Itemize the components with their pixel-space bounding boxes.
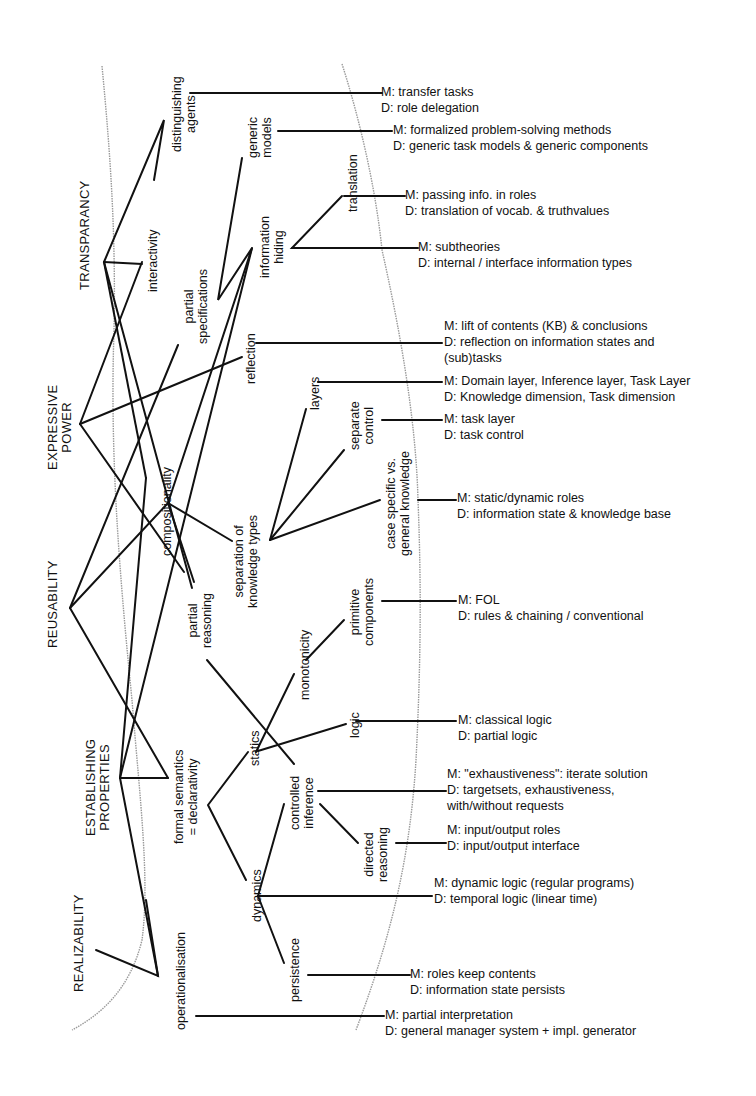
concept-distinguishing-agents: distinguishingagents: [170, 76, 198, 152]
link-controlled-directed: [320, 804, 358, 843]
desc-logic: M: classical logicD: partial logic: [458, 712, 552, 744]
concept-persistence: persistence: [288, 938, 302, 1002]
criterion-realizability: REALIZABILITY: [72, 894, 86, 992]
concept-layers: layers: [308, 377, 322, 410]
concept-controlled-inference: controlledinference: [288, 776, 316, 830]
concept-separate-control: separatecontrol: [348, 401, 376, 450]
concept-operationalisation: operationalisation: [174, 932, 188, 1030]
desc-case-specific: M: static/dynamic rolesD: information st…: [457, 490, 671, 522]
concept-primitive-components: primitivecomponents: [348, 578, 376, 646]
concept-partial-reasoning: partialreasoning: [186, 593, 214, 648]
desc-generic-models: M: formalized problem-solving methodsD: …: [393, 122, 648, 154]
criterion-reusability: REUSABILITY: [46, 560, 60, 648]
concept-formal-semantics: formal semantics= declarativity: [172, 750, 200, 844]
concept-interactivity: interactivity: [146, 229, 160, 292]
concept-dynamics: dynamics: [250, 869, 264, 922]
link-formal-statics-dynamics: [208, 752, 248, 880]
concept-monotonicity: monotonicity: [298, 630, 312, 700]
diagram-lines: [0, 0, 756, 1096]
link-sep-layers: [270, 409, 306, 540]
link-transparancy-a: [104, 262, 146, 478]
desc-primitive-components: M: FOLD: rules & chaining / conventional: [458, 592, 644, 624]
desc-reflection: M: lift of contents (KB) & conclusionsD:…: [444, 318, 655, 366]
concept-separation-of-knowledge-types: separation ofknowledge types: [232, 515, 260, 608]
concept-generic-models: genericmodels: [246, 117, 274, 158]
link-partial-spec-zigzag: [168, 158, 252, 503]
desc-dynamics: M: dynamic logic (regular programs)D: te…: [434, 875, 634, 907]
concept-translation: translation: [346, 154, 360, 212]
concept-case-specific-vs-general: case specific vs.general knowledge: [384, 451, 412, 556]
criterion-transparancy: TRANSPARANCY: [78, 180, 92, 290]
link-transparancy-interactivity: [104, 262, 142, 264]
desc-distinguishing-agents: M: transfer tasksD: role delegation: [381, 84, 479, 116]
link-reusability-compositionality: [70, 503, 168, 608]
desc-controlled-inference: M: "exhaustiveness": iterate solutionD: …: [447, 766, 648, 814]
link-expressive-reflection: [80, 357, 242, 424]
desc-separate-control: M: task layerD: task control: [444, 411, 524, 443]
desc-layers: M: Domain layer, Inference layer, Task L…: [444, 373, 690, 405]
desc-persistence: M: roles keep contentsD: information sta…: [410, 966, 565, 998]
link-realizability-op: [96, 900, 158, 976]
criterion-expressive-power: EXPRESSIVEPOWER: [46, 385, 74, 470]
concept-statics: statics: [248, 731, 262, 766]
criteria-concept-diagram: TRANSPARANCY EXPRESSIVEPOWER REUSABILITY…: [0, 0, 756, 1096]
concept-logic: logic: [348, 712, 362, 738]
desc-translation: M: passing info. in rolesD: translation …: [405, 187, 609, 219]
desc-directed-reasoning: M: input/output rolesD: input/output int…: [447, 822, 580, 854]
link-info-hiding-translation: [292, 196, 378, 248]
concept-partial-specifications: partialspecifications: [182, 269, 210, 344]
desc-operationalisation: M: partial interpretationD: general mana…: [385, 1007, 636, 1039]
criterion-establishing-properties: ESTABLISHINGPROPERTIES: [84, 739, 112, 836]
concept-compositionality: compositionality: [160, 467, 174, 556]
concept-reflection: reflection: [244, 333, 258, 384]
desc-information-hiding: M: subtheoriesD: internal / interface in…: [418, 239, 632, 271]
concept-information-hiding: informationhiding: [258, 216, 286, 278]
concept-directed-reasoning: directedreasoning: [362, 827, 390, 882]
